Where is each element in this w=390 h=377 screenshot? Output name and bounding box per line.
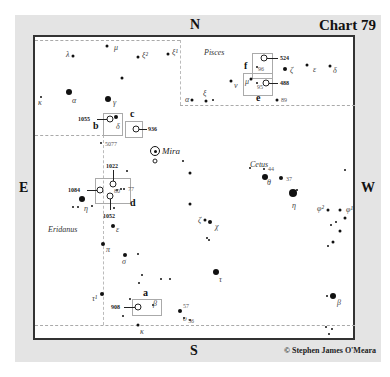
star-dot <box>329 65 332 68</box>
star-number: 96 <box>258 66 264 72</box>
star-dot <box>250 78 253 81</box>
star-dot <box>178 309 182 313</box>
constellation-label: Eridanus <box>48 225 77 234</box>
star-dot <box>327 245 329 247</box>
box-label-f: f <box>244 60 247 71</box>
star-dot <box>331 328 333 330</box>
star-dot <box>283 67 287 71</box>
mira-variable-star-icon <box>150 146 160 156</box>
star-number: 44 <box>268 166 274 172</box>
star-dot <box>208 220 212 224</box>
star-label: η <box>84 204 88 213</box>
star-dot <box>72 206 74 208</box>
galaxy-leader <box>97 119 107 120</box>
star-number: 80 <box>114 188 120 194</box>
galaxy-leader <box>110 199 111 210</box>
star-dot <box>276 99 279 102</box>
star-dot <box>204 219 207 222</box>
star-dot <box>167 53 170 56</box>
star-label: υ <box>183 314 187 323</box>
constellation-border <box>180 105 355 106</box>
star-dot <box>137 56 140 59</box>
star-label: κ <box>140 327 144 336</box>
star-number: 57 <box>183 303 189 309</box>
galaxy-ngc-label: 1022 <box>106 163 118 169</box>
star-dot <box>339 230 342 233</box>
star-dot <box>328 333 330 335</box>
star-dot <box>122 315 124 317</box>
compass-south: S <box>190 343 198 359</box>
compass-west: W <box>361 180 375 196</box>
star-dot <box>296 189 298 191</box>
star-dot <box>100 292 104 296</box>
star-label: ν <box>234 81 238 90</box>
star-label: ζ <box>198 216 201 225</box>
galaxy-ngc-label: 1052 <box>103 213 115 219</box>
constellation-label: Pisces <box>204 48 224 57</box>
compass-east: E <box>19 180 28 196</box>
star-label: φ¹ <box>346 205 353 214</box>
star-dot <box>332 241 335 244</box>
copyright-credit: © Stephen James O'Meara <box>284 346 376 355</box>
star-dot <box>279 176 283 180</box>
galaxy-ngc-label: 524 <box>280 55 289 61</box>
galaxy-ngc-label: 936 <box>148 126 157 132</box>
star-dot <box>205 100 208 103</box>
star-label: α <box>185 95 189 104</box>
star-dot <box>113 207 115 209</box>
star-dot <box>160 278 162 280</box>
star-dot <box>66 89 72 95</box>
star-dot <box>91 205 93 207</box>
star-dot <box>212 99 214 101</box>
constellation-border <box>103 135 104 325</box>
star-label: σ <box>122 257 126 266</box>
box-label-a: a <box>143 287 148 298</box>
star-dot <box>344 169 346 171</box>
star-dot <box>126 170 128 172</box>
star-dot <box>105 96 111 102</box>
galaxy-ngc-label: 1084 <box>68 187 80 193</box>
star-label: β <box>337 298 341 307</box>
star-number: 89 <box>281 97 287 103</box>
galaxy-marker-ngc908 <box>135 304 142 311</box>
star-label: δ <box>116 122 120 131</box>
star-dot <box>330 293 336 299</box>
star-chart-area <box>33 35 355 340</box>
star-label: μ <box>245 77 249 86</box>
star-number: 5077 <box>105 141 117 147</box>
constellation-border <box>35 135 105 136</box>
star-dot <box>77 206 79 208</box>
star-dot <box>327 209 330 212</box>
box-label-e: e <box>256 92 260 103</box>
galaxy-marker-ngc1022 <box>110 181 117 188</box>
galaxy-leader <box>267 58 278 59</box>
box-label-d: d <box>130 197 136 208</box>
star-number: 37 <box>286 176 292 182</box>
star-dot <box>326 295 328 297</box>
star-dot <box>111 224 115 228</box>
chart-title: Chart 79 <box>319 17 376 34</box>
star-dot <box>141 274 143 276</box>
star-dot <box>123 188 125 190</box>
star-dot <box>208 239 210 241</box>
star-label: ε <box>313 65 316 74</box>
star-dot <box>100 142 102 144</box>
star-dot <box>335 221 337 223</box>
star-number: 77 <box>128 186 134 192</box>
star-dot <box>129 298 131 300</box>
star-dot <box>101 242 105 246</box>
star-dot <box>330 224 332 226</box>
star-dot <box>344 217 347 220</box>
star-dot <box>169 278 171 280</box>
galaxy-ngc-label: 1055 <box>78 116 90 122</box>
constellation-label: Cetus <box>250 160 268 169</box>
compass-north: N <box>190 17 200 33</box>
galaxy-leader <box>269 83 278 84</box>
star-label: ξ¹ <box>172 48 178 57</box>
star-dot <box>182 160 184 162</box>
star-dot <box>189 203 192 206</box>
star-label: η <box>292 201 296 210</box>
star-label: ξ <box>203 89 206 98</box>
star-label: λ <box>66 50 69 59</box>
star-dot <box>249 167 251 169</box>
